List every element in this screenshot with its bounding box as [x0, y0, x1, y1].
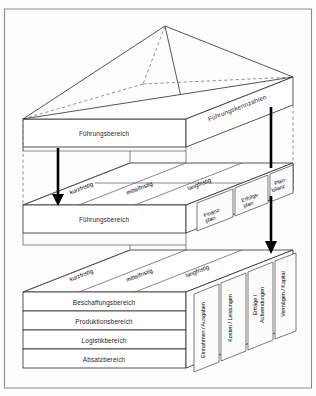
diagram-canvas: Führungsbereich Führungskennzahlen F [0, 0, 316, 396]
bottom-row-1-label: Beschaffungsbereich [73, 299, 136, 307]
middle-block-face-label: Führungsbereich [79, 216, 130, 224]
bottom-panel-ertraege-label-line1: Erträge / [252, 294, 258, 315]
bottom-row-4-label: Absatzbereich [83, 356, 126, 363]
top-block-face-label: Führungsbereich [79, 130, 130, 138]
bottom-panel-vermoegen-label: Vermögen / Kapital [280, 271, 286, 317]
bottom-panel-kosten-label: Kosten / Leistungen [227, 294, 233, 342]
bottom-panel-einnahmen-label: Einnahmen / Ausgaben [200, 302, 206, 358]
pyramid-diagram: Führungsbereich Führungskennzahlen F [0, 0, 316, 396]
right-down-arrow-lower [265, 196, 277, 254]
bottom-row-2-label: Produktionsbereich [75, 318, 133, 325]
bottom-panel-einnahmen [194, 284, 219, 372]
bottom-row-3-label: Logistikbereich [82, 337, 127, 345]
bottom-panel-kosten [221, 273, 246, 361]
left-down-arrow-upper [52, 148, 64, 206]
bottom-panel-ertraege-label-line2: Aufwendungen [259, 287, 265, 323]
